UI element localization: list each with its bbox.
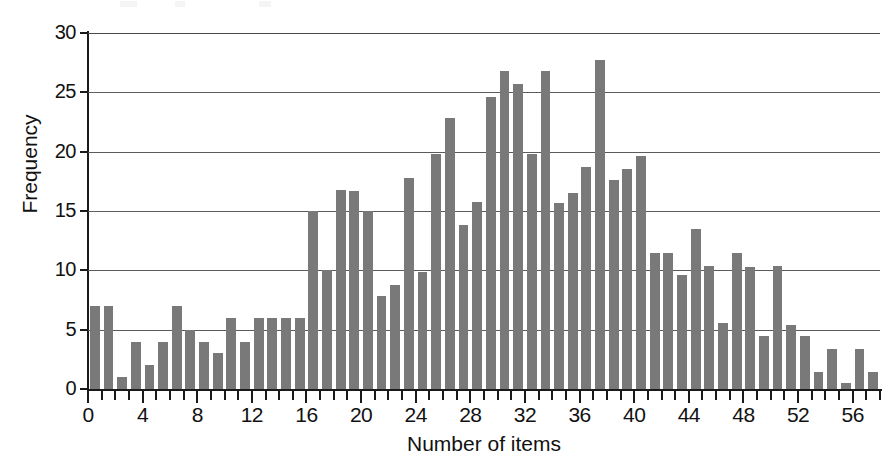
- histogram-bar: [267, 318, 277, 389]
- histogram-bar: [745, 267, 755, 389]
- scan-artifact: [120, 1, 330, 7]
- gridline: [88, 92, 880, 93]
- histogram-bar: [609, 180, 619, 389]
- y-tick-label-wrap: 30: [34, 22, 76, 42]
- x-tick-major: [469, 391, 471, 403]
- histogram-bar: [349, 191, 359, 389]
- histogram-bar: [117, 377, 127, 389]
- x-tick-major: [305, 391, 307, 403]
- histogram-bar: [213, 353, 223, 389]
- x-tick-minor: [456, 391, 458, 400]
- histogram-bar: [773, 266, 783, 389]
- y-tick-label: 0: [34, 378, 76, 398]
- gridline: [88, 330, 880, 331]
- histogram-bar: [104, 306, 114, 389]
- y-tick-label-wrap: 0: [34, 378, 76, 398]
- y-tick-label-wrap: 5: [34, 319, 76, 339]
- histogram-bar: [322, 270, 332, 389]
- x-tick-minor: [592, 391, 594, 400]
- x-tick-minor: [292, 391, 294, 400]
- y-axis-title: Frequency: [18, 49, 42, 279]
- y-tick: [80, 210, 88, 212]
- histogram-bar: [459, 225, 469, 389]
- histogram-bar: [158, 342, 168, 389]
- histogram-bar: [622, 169, 632, 389]
- x-axis-title: Number of items: [88, 432, 880, 456]
- histogram-bar: [281, 318, 291, 389]
- x-tick-major: [742, 391, 744, 403]
- x-tick-label: 40: [612, 404, 656, 425]
- x-tick-minor: [824, 391, 826, 400]
- histogram-bar: [431, 154, 441, 389]
- histogram-bar: [732, 253, 742, 389]
- histogram-bar: [254, 318, 264, 389]
- x-tick-minor: [770, 391, 772, 400]
- x-tick-label: 28: [448, 404, 492, 425]
- histogram-bar: [185, 330, 195, 389]
- x-tick-minor: [538, 391, 540, 400]
- x-tick-label: 8: [175, 404, 219, 425]
- histogram-bar: [827, 349, 837, 389]
- histogram-bar: [650, 253, 660, 389]
- x-tick-major: [415, 391, 417, 403]
- x-tick-minor: [401, 391, 403, 400]
- gridline: [88, 211, 880, 212]
- histogram-bar: [595, 60, 605, 389]
- histogram-bar: [636, 156, 646, 389]
- x-tick-minor: [865, 391, 867, 400]
- histogram-bar: [800, 336, 810, 389]
- x-tick-major: [87, 391, 89, 403]
- x-tick-major: [579, 391, 581, 403]
- histogram-bar: [472, 202, 482, 389]
- x-tick-label: 20: [339, 404, 383, 425]
- x-tick-minor: [497, 391, 499, 400]
- x-tick-label: 48: [721, 404, 765, 425]
- x-tick-minor: [101, 391, 103, 400]
- x-tick-minor: [346, 391, 348, 400]
- x-tick-minor: [155, 391, 157, 400]
- histogram-bar: [554, 203, 564, 389]
- x-tick-minor: [783, 391, 785, 400]
- x-tick-minor: [811, 391, 813, 400]
- x-tick-minor: [442, 391, 444, 400]
- x-tick-minor: [333, 391, 335, 400]
- x-tick-major: [797, 391, 799, 403]
- histogram-bar: [486, 97, 496, 389]
- histogram-bar: [704, 266, 714, 389]
- histogram-bar: [759, 336, 769, 389]
- histogram-bar: [295, 318, 305, 389]
- histogram-bar: [418, 272, 428, 389]
- histogram-bar: [568, 193, 578, 389]
- histogram-bar: [240, 342, 250, 389]
- y-tick-label: 30: [34, 22, 76, 42]
- x-tick-label: 32: [503, 404, 547, 425]
- histogram-bar: [172, 306, 182, 389]
- x-tick-minor: [661, 391, 663, 400]
- x-tick-minor: [729, 391, 731, 400]
- histogram-bar: [199, 342, 209, 389]
- x-tick-major: [524, 391, 526, 403]
- histogram-bar: [390, 285, 400, 389]
- histogram-bar: [308, 211, 318, 389]
- x-tick-minor: [674, 391, 676, 400]
- x-tick-major: [360, 391, 362, 403]
- x-tick-label: 44: [667, 404, 711, 425]
- plot-area: [88, 33, 880, 389]
- x-tick-minor: [183, 391, 185, 400]
- gridline: [88, 152, 880, 153]
- y-tick: [80, 269, 88, 271]
- x-tick-minor: [715, 391, 717, 400]
- x-tick-minor: [838, 391, 840, 400]
- x-tick-label: 24: [394, 404, 438, 425]
- x-tick-major: [251, 391, 253, 403]
- histogram-bar: [336, 190, 346, 389]
- histogram-bar: [445, 118, 455, 389]
- histogram-bar: [90, 306, 100, 389]
- y-tick: [80, 388, 88, 390]
- histogram-bar: [513, 84, 523, 389]
- y-tick: [80, 91, 88, 93]
- x-tick-minor: [265, 391, 267, 400]
- histogram-bar: [145, 365, 155, 389]
- x-tick-minor: [237, 391, 239, 400]
- x-tick-minor: [224, 391, 226, 400]
